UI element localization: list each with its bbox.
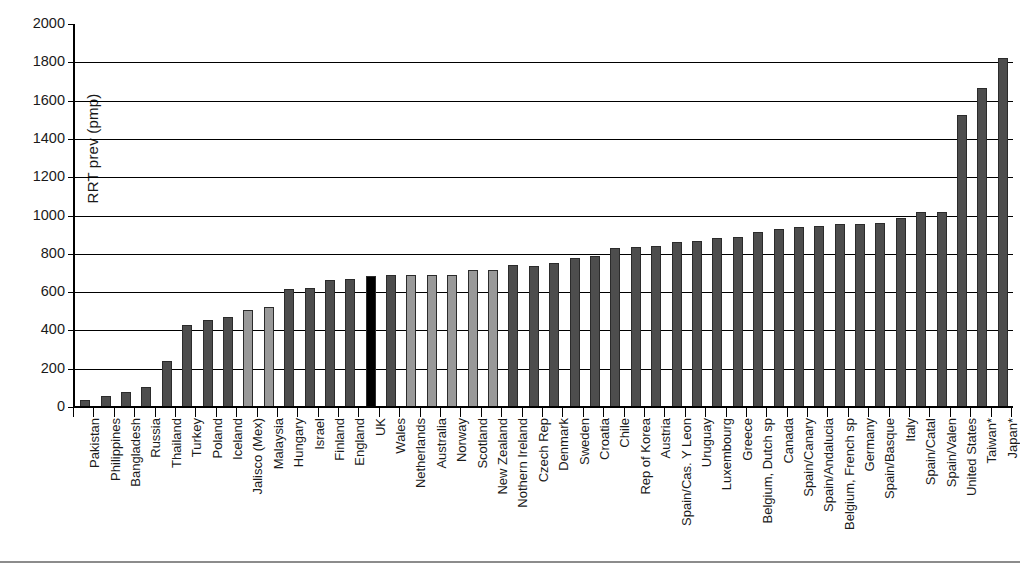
x-axis-label: Netherlands [414,418,427,488]
x-axis-label: Germany [863,418,876,471]
bar [345,279,355,407]
x-axis-label: Uruguay [700,418,713,467]
bar [386,275,396,407]
x-tick [195,408,196,417]
x-tick [624,408,625,417]
bar [121,392,131,407]
x-tick [827,408,828,417]
x-axis-label: United States [965,418,978,496]
y-tick-label-2000: 2000 [9,16,65,31]
y-tick-600 [68,292,75,293]
x-axis-label: Wales [394,418,407,454]
bar [141,387,151,407]
bar [284,289,294,407]
y-tick-label-600: 600 [9,284,65,299]
x-axis-label: Spain/Basque [883,418,896,499]
y-tick-label-0: 0 [9,399,65,414]
y-tick-400 [68,330,75,331]
x-axis-label: Belgium, French sp [843,418,856,530]
x-axis-label: Spain/Valen [945,418,958,487]
plot-area: 0200400600800100012001400160018002000 [73,24,1013,407]
x-tick [175,408,176,417]
y-tick-label-800: 800 [9,246,65,261]
y-tick-1400 [68,139,75,140]
x-tick [1011,408,1012,417]
bar [937,212,947,407]
x-axis-label: England [353,418,366,466]
x-axis-category-labels: PakistanPhilippinesBangladeshRussiaThail… [73,418,1011,558]
y-tick-label-200: 200 [9,361,65,376]
y-tick-800 [68,254,75,255]
x-axis-label: Spain/Catal [924,418,937,485]
bar-series [75,24,1013,407]
x-axis-label: Taiwan* [985,418,998,464]
x-axis-label: Jalisco (Mex) [251,418,264,495]
bar [325,280,335,407]
x-tick [114,408,115,417]
x-tick [501,408,502,417]
x-axis-label: Norway [455,418,468,462]
bar [814,226,824,407]
x-tick [909,408,910,417]
bar [998,58,1008,407]
x-tick [562,408,563,417]
x-axis-label: Finland [333,418,346,461]
x-tick [155,408,156,417]
x-axis-label: Belgium, Dutch sp [761,418,774,524]
x-tick [970,408,971,417]
bar [753,232,763,407]
bar [957,115,967,407]
x-axis-label: Iceland [231,418,244,460]
x-tick [542,408,543,417]
y-tick-label-1800: 1800 [9,54,65,69]
y-tick-label-1000: 1000 [9,208,65,223]
x-tick [338,408,339,417]
x-tick [134,408,135,417]
x-tick [522,408,523,417]
x-tick [929,408,930,417]
x-axis-label: Australia [435,418,448,469]
x-tick [868,408,869,417]
x-tick [93,408,94,417]
y-tick-label-400: 400 [9,322,65,337]
x-tick [236,408,237,417]
bar [488,270,498,407]
x-axis-label: Malaysia [272,418,285,469]
x-axis-label: Turkey [190,418,203,457]
figure-bottom-rule [0,561,1020,563]
bar [162,361,172,407]
x-axis-label: Croatia [598,418,611,460]
x-axis-label: Chile [618,418,631,448]
y-tick-label-1600: 1600 [9,93,65,108]
x-axis-label: Scotland [476,418,489,469]
bar [468,270,478,407]
bar [508,265,518,407]
x-axis-label: Rep of Korea [639,418,652,495]
x-axis-label: Poland [211,418,224,458]
y-tick-1000 [68,216,75,217]
bar [672,242,682,407]
bar [631,247,641,407]
x-axis-label: Italy [904,418,917,442]
x-tick [73,408,74,417]
x-tick [216,408,217,417]
bar [243,310,253,407]
x-tick [664,408,665,417]
x-tick [950,408,951,417]
x-axis-ticks [73,408,1011,417]
x-axis-label: Czech Rep [537,418,550,482]
x-tick [318,408,319,417]
x-tick [991,408,992,417]
x-axis-label: Greece [741,418,754,461]
x-axis-label: Philippines [109,418,122,481]
x-axis-label: Nothern Ireland [516,418,529,508]
y-tick-1200 [68,177,75,178]
bar [875,223,885,407]
x-tick [583,408,584,417]
x-tick [358,408,359,417]
bar [794,227,804,407]
y-tick-label-1200: 1200 [9,169,65,184]
x-tick [379,408,380,417]
x-axis-label: Hungary [292,418,305,467]
x-axis-label: Denmark [557,418,570,471]
